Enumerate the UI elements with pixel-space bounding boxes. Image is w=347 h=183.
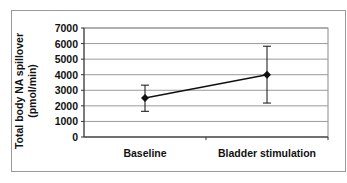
- y-tick-label: 1000: [55, 115, 79, 127]
- plot-area: [84, 28, 328, 137]
- diamond-marker: [141, 94, 149, 102]
- x-category-label: Baseline: [123, 147, 166, 159]
- y-tick-label: 0: [72, 131, 78, 143]
- y-tick-label: 2000: [55, 100, 79, 112]
- y-tick-label: 3000: [55, 84, 79, 96]
- y-tick-label: 6000: [55, 38, 79, 50]
- y-tick-label: 7000: [55, 22, 79, 34]
- y-tick-label: 5000: [55, 53, 79, 65]
- data-line: [145, 75, 267, 98]
- x-category-label: Bladder stimulation: [218, 147, 316, 159]
- line-chart: 01000200030004000500060007000BaselineBla…: [0, 0, 347, 183]
- diamond-marker: [263, 71, 271, 79]
- y-tick-label: 4000: [55, 69, 79, 81]
